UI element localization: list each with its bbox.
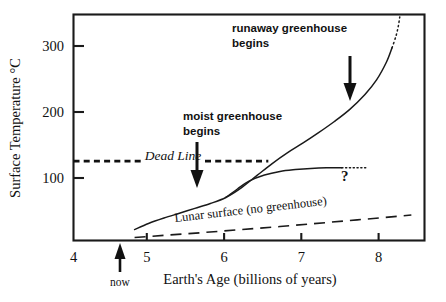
now-annotation: now (110, 243, 131, 288)
y-axis-tick-labels: 300 200 100 (42, 38, 64, 186)
x-tick-label-6: 6 (220, 249, 227, 265)
x-tick-label-4: 4 (70, 249, 78, 265)
runaway-dotted-line (392, 17, 400, 48)
runaway-greenhouse-annotation: runaway greenhouse begins (232, 22, 357, 101)
y-axis-ticks (74, 46, 85, 178)
now-arrow-head (115, 243, 126, 259)
x-tick-label-5: 5 (143, 249, 150, 265)
runaway-arrow-head (344, 83, 357, 101)
now-label: now (110, 276, 131, 288)
y-tick-label-200: 200 (42, 104, 64, 120)
y-axis-title: Surface Temperature °C (7, 58, 23, 198)
lunar-surface-label: Lunar surface (no greenhouse) (174, 194, 328, 225)
moist-greenhouse-annotation: moist greenhouse begins (183, 110, 282, 188)
runaway-annotation-line2: begins (232, 37, 269, 49)
moist-annotation-line2: begins (183, 125, 220, 137)
x-tick-label-7: 7 (298, 249, 305, 265)
moist-arrow-head (191, 170, 204, 188)
question-mark-annotation: ? (341, 168, 349, 184)
moist-annotation-line1: moist greenhouse (183, 110, 282, 122)
y-tick-label-100: 100 (42, 170, 64, 186)
x-axis-ticks (147, 233, 379, 241)
runaway-annotation-line1: runaway greenhouse (232, 22, 347, 34)
dead-line-group: Dead Line (74, 148, 269, 163)
x-axis-title: Earth's Age (billions of years) (163, 271, 337, 288)
dead-line-label: Dead Line (144, 148, 202, 163)
y-tick-label-300: 300 (42, 38, 64, 54)
temperature-vs-earth-age-chart: 300 200 100 4 5 6 7 8 Surface Temperatur… (0, 0, 446, 302)
x-tick-label-8: 8 (375, 249, 382, 265)
figure-container: 300 200 100 4 5 6 7 8 Surface Temperatur… (0, 0, 446, 302)
